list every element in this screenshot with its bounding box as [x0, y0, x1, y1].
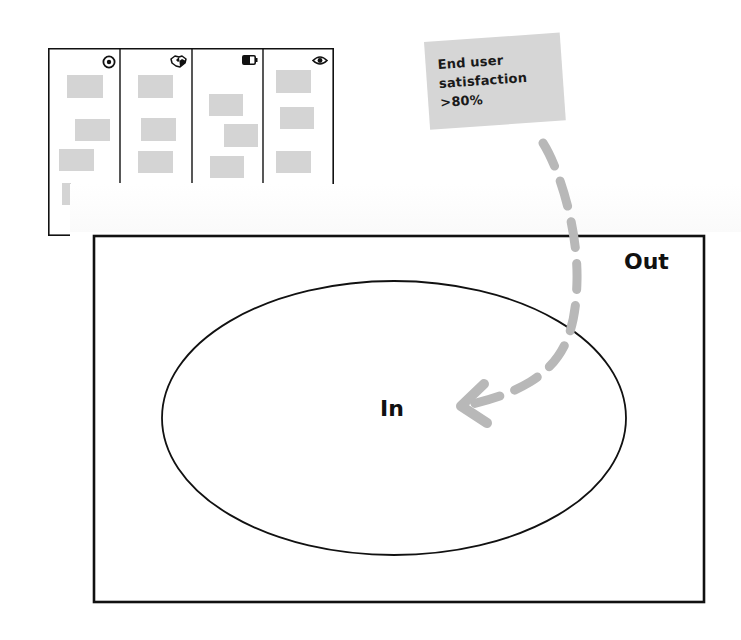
- dashed-arrow: [461, 143, 577, 423]
- goal-note-text: End user satisfaction >80%: [437, 46, 565, 112]
- goal-sticky-note: End user satisfaction >80%: [424, 33, 566, 130]
- out-label: Out: [624, 249, 669, 274]
- in-label: In: [380, 396, 404, 421]
- in-out-diagram: [0, 0, 741, 640]
